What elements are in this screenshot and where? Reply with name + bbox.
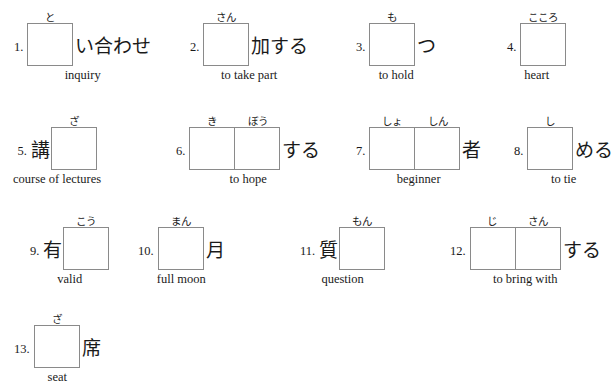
suffix-text: 月 [204, 241, 225, 270]
furigana-reading: と [27, 12, 73, 24]
kanji-answer-box[interactable] [340, 228, 384, 269]
furigana-reading: こころ [520, 12, 566, 24]
answer-boxes [470, 227, 561, 270]
item-number: 12. [450, 245, 470, 271]
furigana-row: きぼう [189, 112, 280, 127]
furigana-reading: し [527, 116, 573, 128]
suffix-text: する [280, 141, 320, 170]
furigana-row: じさん [470, 212, 561, 227]
answer-box-group: もん [339, 212, 385, 270]
kanji-answer-box[interactable] [515, 228, 560, 269]
exercise-item: 4.こころheart [507, 8, 566, 83]
answer-box-group: ざ [51, 112, 97, 170]
suffix-text: する [561, 241, 601, 270]
exercise-item: 6.きぼうするto hope [176, 112, 320, 187]
furigana-row: もん [339, 212, 385, 227]
answer-boxes [34, 325, 80, 368]
answer-boxes [369, 127, 460, 170]
furigana-row: まん [158, 212, 204, 227]
english-meaning: to tie [551, 173, 576, 187]
exercise-item: 13.ざ席seat [14, 310, 101, 385]
answer-box-group: まん [158, 212, 204, 270]
item-number: 8. [514, 145, 527, 171]
answer-box-group: こころ [520, 8, 566, 66]
furigana-reading: ざ [34, 314, 80, 326]
kanji-answer-box[interactable] [521, 24, 565, 65]
answer-box-group: じさん [470, 212, 561, 270]
kanji-answer-box[interactable] [159, 228, 203, 269]
item-number: 7. [356, 145, 369, 171]
suffix-text: める [573, 141, 613, 170]
item-number: 1. [14, 41, 27, 67]
answer-boxes [158, 227, 204, 270]
exercise-line: 8.しめる [514, 112, 613, 170]
kanji-answer-box[interactable] [370, 128, 414, 169]
answer-boxes [369, 23, 415, 66]
furigana-reading: ぼう [235, 116, 281, 128]
furigana-row: も [369, 8, 415, 23]
item-number: 9. [30, 245, 43, 271]
kanji-answer-box[interactable] [35, 326, 79, 367]
exercise-item: 10.まん月full moon [138, 212, 225, 287]
kanji-answer-box[interactable] [370, 24, 414, 65]
furigana-reading: こう [63, 216, 109, 228]
furigana-reading: も [369, 12, 415, 24]
kanji-worksheet: 1.とい合わせinquiry2.さん加するto take part3.もつto … [0, 0, 615, 389]
exercise-line: 4.こころ [507, 8, 566, 66]
answer-box-group: も [369, 8, 415, 66]
english-meaning: seat [48, 371, 67, 385]
answer-boxes [51, 127, 97, 170]
exercise-line: 9.有こう [30, 212, 109, 270]
kanji-answer-box[interactable] [234, 128, 279, 169]
answer-box-group: と [27, 8, 73, 66]
furigana-reading: まん [158, 216, 204, 228]
furigana-row: さん [203, 8, 249, 23]
exercise-item: 12.じさんするto bring with [450, 212, 601, 287]
exercise-line: 11.質もん [300, 212, 385, 270]
exercise-line: 12.じさんする [450, 212, 601, 270]
furigana-row: ざ [34, 310, 80, 325]
answer-box-group: ざ [34, 310, 80, 368]
answer-box-group: きぼう [189, 112, 280, 170]
exercise-line: 7.しょしん者 [356, 112, 481, 170]
furigana-reading: しょ [369, 116, 415, 128]
answer-box-group: こう [63, 212, 109, 270]
kanji-answer-box[interactable] [414, 128, 459, 169]
kanji-answer-box[interactable] [471, 228, 515, 269]
furigana-reading: じ [470, 216, 516, 228]
english-meaning: beginner [397, 173, 441, 187]
english-meaning: to hope [230, 173, 267, 187]
item-number: 13. [14, 343, 34, 369]
exercise-item: 3.もつto hold [356, 8, 436, 83]
kanji-answer-box[interactable] [64, 228, 108, 269]
exercise-line: 1.とい合わせ [14, 8, 151, 66]
exercise-line: 13.ざ席 [14, 310, 101, 368]
answer-boxes [203, 23, 249, 66]
exercise-line: 3.もつ [356, 8, 436, 66]
furigana-row: と [27, 8, 73, 23]
prefix-kanji: 有 [43, 241, 63, 270]
exercise-line: 2.さん加する [190, 8, 308, 66]
furigana-row: こころ [520, 8, 566, 23]
kanji-answer-box[interactable] [52, 128, 96, 169]
kanji-answer-box[interactable] [204, 24, 248, 65]
kanji-answer-box[interactable] [28, 24, 72, 65]
kanji-answer-box[interactable] [528, 128, 572, 169]
item-number: 4. [507, 41, 520, 67]
english-meaning: valid [57, 273, 82, 287]
exercise-line: 10.まん月 [138, 212, 225, 270]
exercise-item: 8.しめるto tie [514, 112, 613, 187]
suffix-text: つ [415, 37, 436, 66]
english-meaning: course of lectures [13, 173, 101, 187]
answer-box-group: しょしん [369, 112, 460, 170]
kanji-answer-box[interactable] [190, 128, 234, 169]
item-number: 3. [356, 41, 369, 67]
furigana-row: しょしん [369, 112, 460, 127]
exercise-line: 5.講ざ [17, 112, 96, 170]
exercise-item: 1.とい合わせinquiry [14, 8, 151, 83]
furigana-row: ざ [51, 112, 97, 127]
english-meaning: full moon [157, 273, 206, 287]
english-meaning: heart [524, 69, 549, 83]
item-number: 10. [138, 245, 158, 271]
answer-boxes [520, 23, 566, 66]
